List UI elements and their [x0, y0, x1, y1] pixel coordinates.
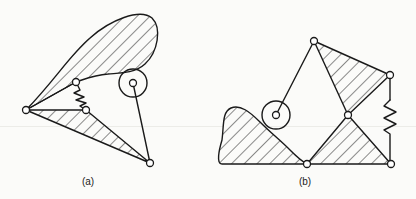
pin-joint: [273, 112, 280, 119]
pin-joint: [345, 112, 352, 119]
crank-rod: [276, 41, 314, 115]
mechanism-diagram: [0, 0, 416, 199]
pin-joint: [23, 107, 30, 114]
pin-joint: [83, 107, 90, 114]
spring: [384, 100, 396, 164]
pin-joint: [311, 38, 318, 45]
pin-joint: [304, 161, 311, 168]
ground-body: [219, 107, 307, 164]
spring: [74, 82, 86, 110]
panel-a: [23, 14, 158, 166]
pin-joint: [130, 80, 137, 87]
upper-right-link: [314, 41, 390, 115]
pin-joint: [387, 72, 394, 79]
pin-joint: [147, 160, 154, 167]
panel-a-label: (a): [82, 176, 94, 187]
panel-b: [219, 38, 396, 168]
pin-joint: [388, 161, 395, 168]
panel-b-label: (b): [299, 176, 311, 187]
lower-link-body: [26, 110, 150, 163]
pin-joint: [73, 79, 80, 86]
lower-right-link: [307, 115, 391, 164]
